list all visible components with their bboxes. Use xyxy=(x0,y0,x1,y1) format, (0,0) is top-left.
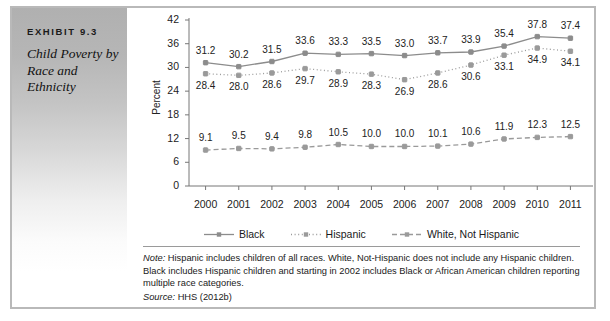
series-marker xyxy=(402,77,406,81)
y-tick-label: 36 xyxy=(157,37,179,49)
series-marker xyxy=(535,46,539,50)
exhibit-figure: EXHIBIT 9.3 Child Poverty by Race and Et… xyxy=(10,6,596,309)
series-marker xyxy=(270,147,274,151)
legend-item-black[interactable]: Black xyxy=(204,228,265,240)
series-marker xyxy=(336,52,340,56)
data-point-label: 30.6 xyxy=(451,71,491,82)
plot-area: Percent 06121824303642 31.230.231.533.63… xyxy=(127,8,596,223)
y-tick-label: 18 xyxy=(157,108,179,120)
y-tick-label: 12 xyxy=(157,132,179,144)
source-prefix: Source: xyxy=(143,292,175,302)
series-marker xyxy=(469,63,473,67)
series-marker xyxy=(237,146,241,150)
series-marker xyxy=(402,53,406,57)
chart-container: Percent 06121824303642 31.230.231.533.63… xyxy=(127,8,596,307)
chart-legend: BlackHispanicWhite, Not Hispanic xyxy=(127,224,596,244)
series-marker xyxy=(270,59,274,63)
series-marker xyxy=(203,148,207,152)
note-text: Hispanic includes children of all races.… xyxy=(143,253,580,288)
series-marker xyxy=(502,53,506,57)
legend-swatch xyxy=(392,230,422,239)
chart-note: Note: Hispanic includes children of all … xyxy=(143,252,583,290)
y-axis-label: Percent xyxy=(151,63,162,133)
series-marker xyxy=(336,142,340,146)
series-marker xyxy=(535,34,539,38)
series-marker xyxy=(303,51,307,55)
chart-source: Source: HHS (2012b) xyxy=(143,292,232,302)
series-marker xyxy=(568,36,572,40)
legend-item-white-not-hispanic[interactable]: White, Not Hispanic xyxy=(392,228,519,240)
series-marker xyxy=(303,145,307,149)
series-marker xyxy=(469,142,473,146)
series-marker xyxy=(436,71,440,75)
exhibit-title: Child Poverty by Race and Ethnicity xyxy=(27,46,123,96)
series-marker xyxy=(270,71,274,75)
legend-label: Hispanic xyxy=(326,228,366,240)
legend-label: Black xyxy=(239,228,265,240)
series-marker xyxy=(237,64,241,68)
notes-divider xyxy=(143,246,580,247)
y-tick-label: 42 xyxy=(157,13,179,25)
series-marker xyxy=(369,144,373,148)
series-marker xyxy=(469,50,473,54)
data-point-label: 34.1 xyxy=(550,57,590,68)
x-tick-label: 2011 xyxy=(550,198,590,210)
data-point-label: 35.4 xyxy=(484,28,524,39)
data-point-label: 37.4 xyxy=(550,20,590,31)
legend-item-hispanic[interactable]: Hispanic xyxy=(291,228,366,240)
series-marker xyxy=(535,135,539,139)
series-marker xyxy=(502,44,506,48)
source-text: HHS (2012b) xyxy=(175,292,232,302)
note-prefix: Note: xyxy=(143,253,165,263)
series-marker xyxy=(303,66,307,70)
legend-swatch xyxy=(204,230,234,239)
legend-label: White, Not Hispanic xyxy=(427,228,519,240)
series-marker xyxy=(436,51,440,55)
series-marker xyxy=(502,137,506,141)
exhibit-number-label: EXHIBIT 9.3 xyxy=(27,26,98,37)
series-marker xyxy=(336,70,340,74)
y-tick-label: 6 xyxy=(157,155,179,167)
series-marker xyxy=(402,144,406,148)
y-tick-label: 24 xyxy=(157,84,179,96)
series-marker xyxy=(369,72,373,76)
series-marker xyxy=(568,134,572,138)
legend-swatch xyxy=(291,230,321,239)
series-marker xyxy=(203,60,207,64)
y-tick-label: 30 xyxy=(157,60,179,72)
series-marker xyxy=(436,144,440,148)
series-marker xyxy=(203,72,207,76)
series-marker xyxy=(237,73,241,77)
y-tick-label: 0 xyxy=(157,179,179,191)
exhibit-panel: EXHIBIT 9.3 Child Poverty by Race and Et… xyxy=(12,8,127,307)
series-marker xyxy=(568,49,572,53)
series-marker xyxy=(369,51,373,55)
data-point-label: 12.5 xyxy=(550,119,590,130)
